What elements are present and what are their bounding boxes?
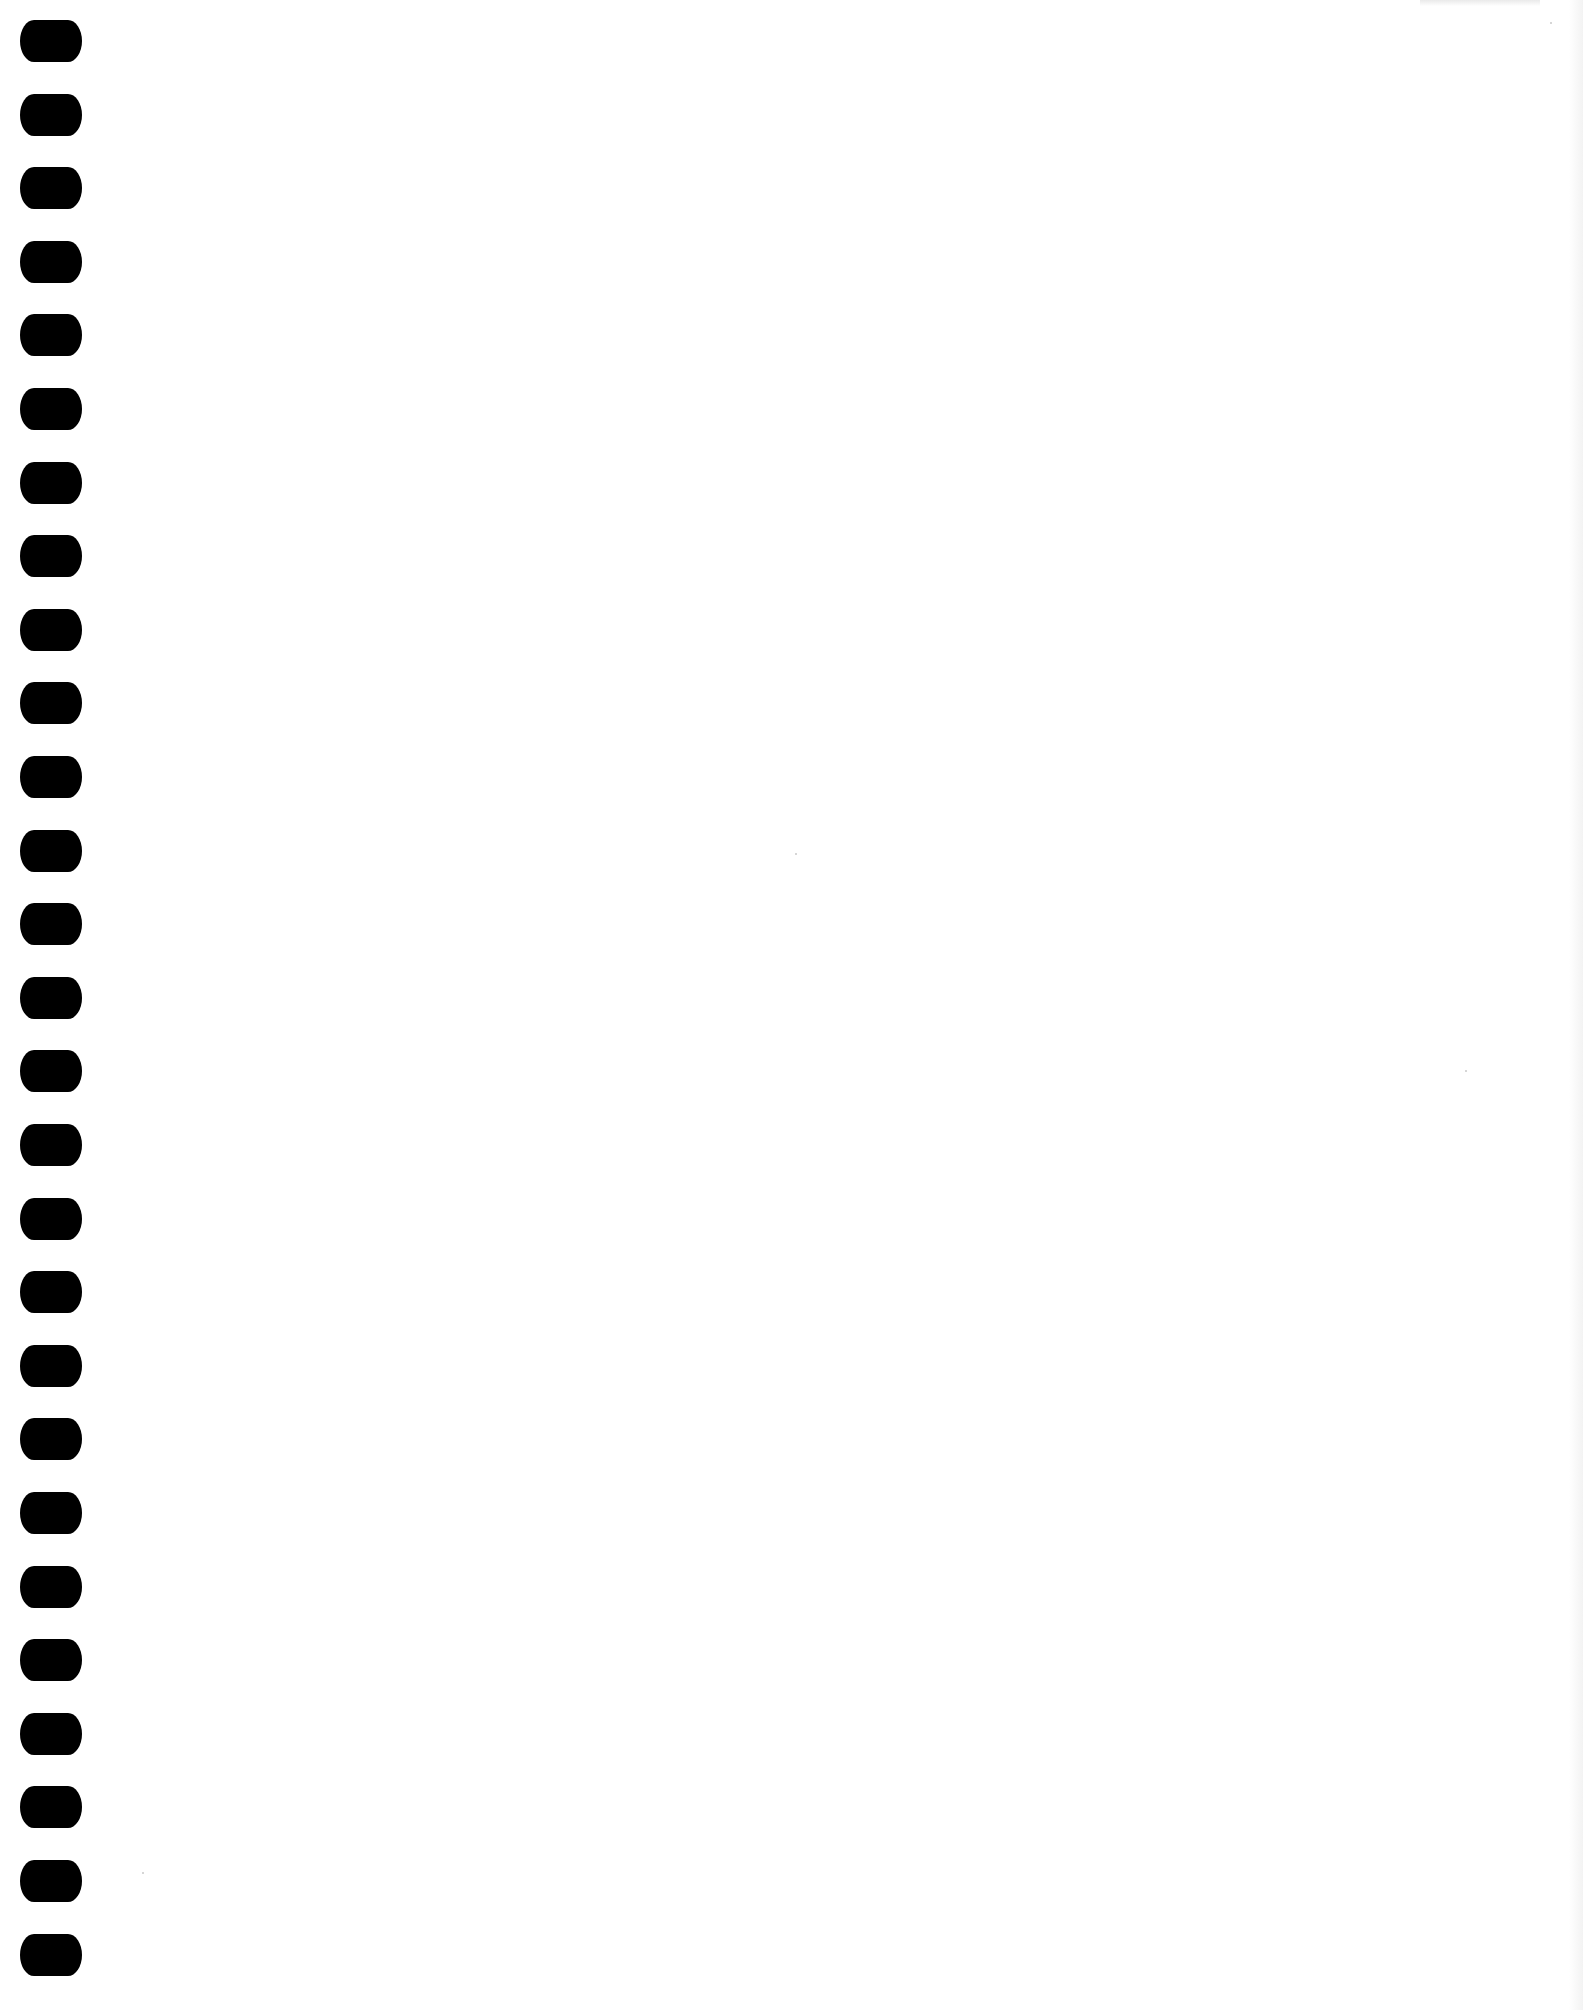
binding-hole — [20, 535, 82, 577]
binding-hole — [20, 1934, 82, 1976]
binding-hole — [20, 462, 82, 504]
notebook-page — [0, 0, 1583, 2010]
binding-hole — [20, 756, 82, 798]
binding-hole — [20, 830, 82, 872]
binding-hole — [20, 903, 82, 945]
page-right-edge — [1569, 0, 1583, 2010]
binding-hole — [20, 94, 82, 136]
binding-hole — [20, 1492, 82, 1534]
page-top-edge — [1420, 0, 1540, 6]
binding-hole — [20, 167, 82, 209]
paper-speck — [1550, 22, 1552, 24]
paper-speck — [142, 1872, 144, 1874]
binding-hole — [20, 241, 82, 283]
binding-hole — [20, 1786, 82, 1828]
binding-hole — [20, 682, 82, 724]
binding-hole — [20, 1198, 82, 1240]
binding-hole — [20, 609, 82, 651]
binding-hole — [20, 1860, 82, 1902]
binding-hole — [20, 314, 82, 356]
binding-hole — [20, 1418, 82, 1460]
paper-speck — [1465, 1070, 1467, 1072]
binding-hole — [20, 1566, 82, 1608]
paper-speck — [795, 853, 797, 855]
binding-hole — [20, 1345, 82, 1387]
binding-hole — [20, 1713, 82, 1755]
binding-hole — [20, 20, 82, 62]
binding-hole — [20, 1639, 82, 1681]
binding-hole — [20, 977, 82, 1019]
binding-hole — [20, 1271, 82, 1313]
binding-hole — [20, 1050, 82, 1092]
spiral-binding-holes — [20, 0, 84, 2010]
binding-hole — [20, 388, 82, 430]
binding-hole — [20, 1124, 82, 1166]
